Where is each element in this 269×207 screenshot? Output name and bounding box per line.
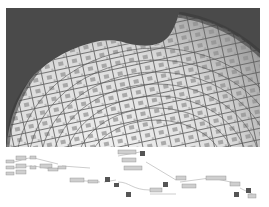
node-graph (0, 148, 269, 207)
dome-render (6, 8, 260, 147)
node-graph-canvas[interactable]: visual programming canvas (0, 148, 269, 207)
3d-viewport[interactable]: 3D viewport (6, 8, 260, 147)
nodes (6, 150, 256, 198)
